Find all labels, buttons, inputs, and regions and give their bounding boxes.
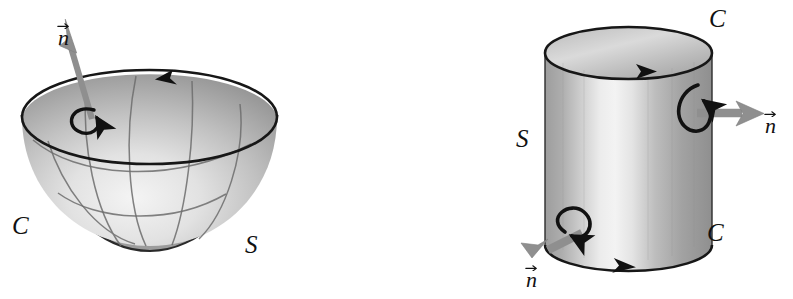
cylinder-top-normal-label: n <box>765 108 776 137</box>
bowl-inner-surface <box>22 74 277 246</box>
bowl-normal-label: n <box>58 20 69 49</box>
cylinder-bottom-normal-label: n <box>526 262 537 291</box>
bowl-figure <box>22 19 277 251</box>
cylinder-top-normal-glyph: n <box>765 113 776 138</box>
figure-canvas <box>0 0 793 299</box>
bowl-normal-glyph: n <box>58 25 69 50</box>
cylinder-top-curve-label: C <box>709 6 726 31</box>
stokes-theorem-figure: n C S C n S C n <box>0 0 793 299</box>
bowl-surface-label: S <box>245 232 258 257</box>
cylinder-bottom-normal-glyph: n <box>526 267 537 292</box>
bowl-curve-label: C <box>12 213 29 238</box>
cylinder-surface-label: S <box>516 126 529 151</box>
cylinder-figure <box>521 27 764 275</box>
cylinder-bottom-curve-label: C <box>707 220 724 245</box>
